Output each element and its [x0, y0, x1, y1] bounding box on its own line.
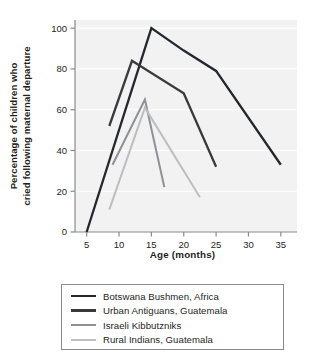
legend-color-swatch: [71, 324, 96, 326]
y-axis-label-line-2: cried following maternal departure: [20, 46, 33, 205]
svg-text:100: 100: [51, 23, 67, 34]
legend-item: Israeli Kibbutzniks: [62, 318, 283, 333]
legend-color-swatch: [71, 339, 96, 341]
chart-legend: Botswana Bushmen, AfricaUrban Antiguans,…: [61, 284, 284, 350]
chart-plot-area: 020406080100 5101520253035 Percentage of…: [0, 0, 310, 266]
x-axis-label: Age (months): [75, 249, 290, 260]
legend-item-label: Urban Antiguans, Guatemala: [103, 305, 228, 316]
legend-item: Urban Antiguans, Guatemala: [62, 304, 283, 319]
svg-text:40: 40: [56, 145, 67, 156]
line-chart-svg: 020406080100 5101520253035: [0, 0, 310, 266]
figure: 020406080100 5101520253035 Percentage of…: [0, 0, 310, 362]
svg-text:0: 0: [62, 226, 67, 237]
y-axis-label: Percentage of children who cried followi…: [8, 46, 33, 205]
y-axis-label-wrap: Percentage of children who cried followi…: [0, 18, 40, 234]
legend-color-swatch: [71, 295, 96, 297]
legend-item: Rural Indians, Guatemala: [62, 333, 283, 348]
svg-text:60: 60: [56, 104, 67, 115]
legend-color-swatch: [71, 309, 96, 312]
y-axis-tick-labels: 020406080100: [51, 23, 67, 238]
svg-text:20: 20: [56, 186, 67, 197]
legend-item-label: Botswana Bushmen, Africa: [103, 291, 219, 302]
svg-text:80: 80: [56, 63, 67, 74]
legend-item-label: Rural Indians, Guatemala: [103, 334, 213, 345]
y-axis-label-line-1: Percentage of children who: [8, 46, 21, 205]
legend-item-label: Israeli Kibbutzniks: [103, 320, 181, 331]
legend-item: Botswana Bushmen, Africa: [62, 289, 283, 304]
